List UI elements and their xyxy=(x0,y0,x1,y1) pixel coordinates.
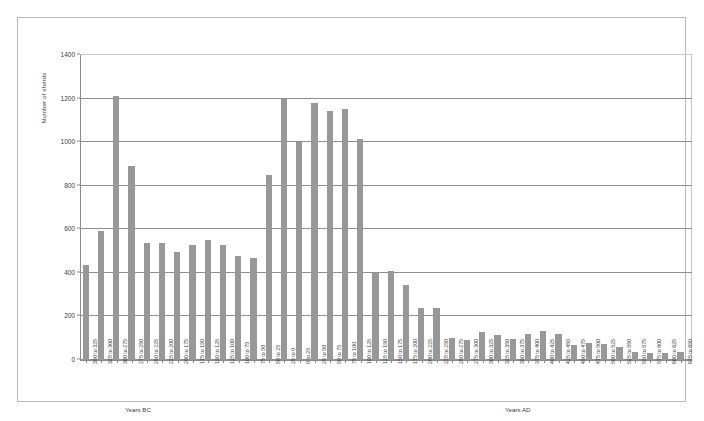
x-tick-mark xyxy=(544,360,545,363)
x-tick-mark xyxy=(666,360,667,363)
bar-slot xyxy=(279,55,294,360)
bar-slot xyxy=(81,55,96,360)
y-tick-mark-1000 xyxy=(77,141,80,142)
bar-slot xyxy=(554,55,569,360)
x-tick-label: 25 to 0 xyxy=(290,348,296,364)
x-tick-mark xyxy=(223,360,224,363)
bar-slot xyxy=(569,55,584,360)
bar xyxy=(586,343,592,360)
bar-slot xyxy=(356,55,371,360)
bar-slot xyxy=(417,55,432,360)
bar xyxy=(327,111,333,360)
x-tick-label: 125 to 100 xyxy=(229,339,235,364)
x-tick-label: 375 to 400 xyxy=(534,339,540,364)
x-tick-label: 225 to 250 xyxy=(443,339,449,364)
bar xyxy=(235,256,241,360)
bar-slot xyxy=(493,55,508,360)
x-tick-mark xyxy=(361,360,362,363)
x-tick-label: 325 to 300 xyxy=(107,339,113,364)
bar-slot xyxy=(234,55,249,360)
x-tick-label: 300 to 325 xyxy=(488,339,494,364)
x-tick-label: 450 to 475 xyxy=(580,339,586,364)
x-tick-label: 625 to 650 xyxy=(687,339,693,364)
bar xyxy=(525,334,531,360)
x-tick-mark xyxy=(437,360,438,363)
bar xyxy=(601,344,607,360)
chart-frame: Number of sherds 02004006008001000120014… xyxy=(17,17,686,402)
bar-slot xyxy=(600,55,615,360)
x-tick-mark xyxy=(467,360,468,363)
x-tick-mark xyxy=(605,360,606,363)
bar xyxy=(677,352,683,360)
bar xyxy=(128,166,134,360)
x-tick-label: 400 to 425 xyxy=(549,339,555,364)
bar xyxy=(571,345,577,360)
y-tick-mark-800 xyxy=(77,184,80,185)
x-tick-label: 125 to 150 xyxy=(382,339,388,364)
bar-slot xyxy=(264,55,279,360)
bar-slot xyxy=(173,55,188,360)
x-tick-mark xyxy=(193,360,194,363)
bar xyxy=(174,252,180,360)
bar-slot xyxy=(127,55,142,360)
bar xyxy=(647,353,653,360)
x-tick-label: 100 to 75 xyxy=(244,342,250,364)
x-tick-label: 350 to 325 xyxy=(92,339,98,364)
bar-slot xyxy=(462,55,477,360)
bar xyxy=(205,240,211,360)
x-tick-label: 200 to 175 xyxy=(183,339,189,364)
bar-slot xyxy=(523,55,538,360)
bar-slot xyxy=(295,55,310,360)
bar xyxy=(616,347,622,360)
y-tick-label-1200: 1200 xyxy=(61,94,75,101)
x-tick-label: 475 to 500 xyxy=(595,339,601,364)
bar xyxy=(311,103,317,360)
bar xyxy=(144,243,150,360)
x-tick-mark xyxy=(422,360,423,363)
era-label-bc: Years BC xyxy=(125,406,151,413)
x-tick-label: 600 to 625 xyxy=(671,339,677,364)
x-tick-mark xyxy=(513,360,514,363)
bar-slot xyxy=(630,55,645,360)
x-tick-label: 150 to 125 xyxy=(214,339,220,364)
x-tick-mark xyxy=(269,360,270,363)
x-tick-mark xyxy=(483,360,484,363)
x-tick-mark xyxy=(635,360,636,363)
bar-slot xyxy=(371,55,386,360)
x-tick-label: 575 to 600 xyxy=(656,339,662,364)
x-tick-mark xyxy=(528,360,529,363)
y-tick-label-200: 200 xyxy=(64,312,75,319)
x-tick-mark xyxy=(162,360,163,363)
bar xyxy=(281,99,287,360)
bar xyxy=(403,285,409,360)
bar xyxy=(479,332,485,360)
y-tick-label-0: 0 xyxy=(71,356,75,363)
bar-slot xyxy=(645,55,660,360)
y-axis-title: Number of sherds xyxy=(40,38,47,158)
x-tick-label: 500 to 525 xyxy=(610,339,616,364)
x-tick-mark xyxy=(86,360,87,363)
x-tick-label: 300 to 275 xyxy=(122,339,128,364)
x-tick-mark xyxy=(620,360,621,363)
x-tick-mark xyxy=(391,360,392,363)
bar xyxy=(159,243,165,360)
bar xyxy=(113,96,119,360)
bar-slot xyxy=(310,55,325,360)
y-tick-mark-600 xyxy=(77,228,80,229)
bar-slot xyxy=(96,55,111,360)
y-tick-label-1400: 1400 xyxy=(61,51,75,58)
x-tick-label: 525 to 550 xyxy=(626,339,632,364)
x-tick-label: 175 to 150 xyxy=(199,339,205,364)
y-tick-mark-1400 xyxy=(77,54,80,55)
bar-slot xyxy=(676,55,691,360)
bar-slot xyxy=(157,55,172,360)
x-tick-label: 50 to 25 xyxy=(275,345,281,364)
bar-slot xyxy=(218,55,233,360)
bar xyxy=(540,331,546,360)
x-tick-label: 275 to 300 xyxy=(473,339,479,364)
x-tick-label: 100 to 125 xyxy=(366,339,372,364)
x-tick-mark xyxy=(589,360,590,363)
x-tick-label: 75 to 50 xyxy=(260,345,266,364)
x-tick-label: 425 to 450 xyxy=(565,339,571,364)
bar xyxy=(510,339,516,360)
